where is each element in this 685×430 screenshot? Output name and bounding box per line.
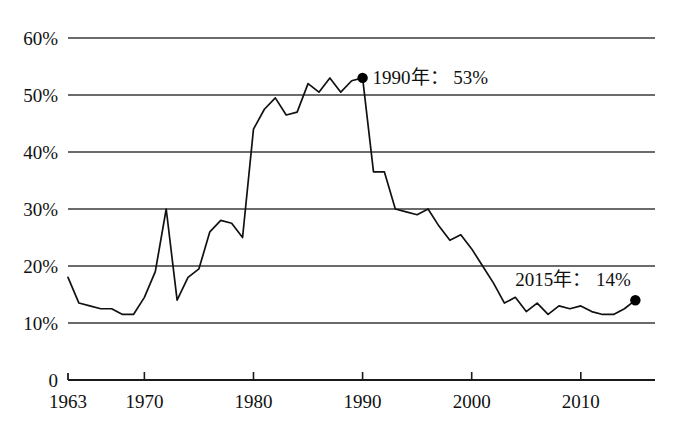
y-tick-label: 0: [49, 370, 59, 391]
x-tick-label: 1980: [234, 391, 272, 412]
annotations-group: 1990年： 53%2015年： 14%: [373, 67, 632, 290]
y-tick-label: 10%: [23, 313, 58, 334]
y-tick-label: 40%: [23, 142, 58, 163]
y-tick-label: 30%: [23, 199, 58, 220]
y-axis-labels-group: 010%20%30%40%50%60%: [23, 28, 58, 391]
data-point-marker: [630, 295, 640, 305]
x-tick-label: 1970: [125, 391, 163, 412]
y-tick-label: 50%: [23, 85, 58, 106]
y-tick-label: 60%: [23, 28, 58, 49]
x-tick-label: 2010: [562, 391, 600, 412]
x-axis-labels-group: 196319701980199020002010: [49, 391, 600, 412]
x-axis-group: [68, 372, 655, 380]
chart-annotation-label: 2015年： 14%: [515, 269, 631, 290]
x-tick-label: 1963: [49, 391, 87, 412]
data-point-marker: [357, 73, 367, 83]
x-tick-label: 1990: [344, 391, 382, 412]
chart-figure: 010%20%30%40%50%60% 19631970198019902000…: [0, 0, 685, 430]
x-tick-label: 2000: [453, 391, 491, 412]
chart-annotation-label: 1990年： 53%: [373, 67, 489, 88]
y-tick-label: 20%: [23, 256, 58, 277]
line-chart-canvas: 010%20%30%40%50%60% 19631970198019902000…: [0, 0, 685, 430]
